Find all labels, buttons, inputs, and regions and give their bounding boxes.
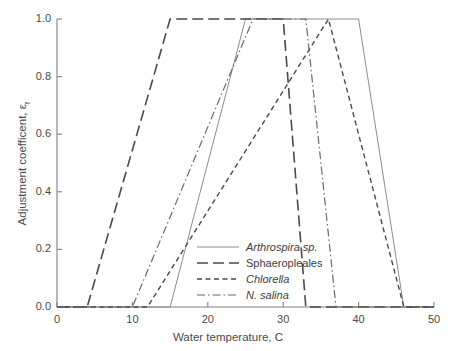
- x-tick-label: 50: [414, 313, 454, 325]
- legend-line-sample: [196, 289, 240, 301]
- legend-item: Chlorella: [196, 271, 322, 286]
- legend-label: Arthrospira sp.: [246, 241, 318, 253]
- y-tick-label: 0.0: [9, 300, 51, 312]
- legend-item: Arthrospira sp.: [196, 239, 322, 254]
- x-tick-label: 10: [112, 313, 152, 325]
- legend-item: Sphaeropleales: [196, 255, 322, 270]
- y-axis-title: Adjustment coefficent, εf: [16, 54, 31, 274]
- x-axis-title: Water temperature, C: [0, 331, 456, 343]
- y-tick-label: 1.0: [9, 12, 51, 24]
- x-tick-label: 20: [188, 313, 228, 325]
- x-tick-label: 40: [339, 313, 379, 325]
- legend-label: Chlorella: [246, 273, 289, 285]
- x-tick-label: 0: [37, 313, 77, 325]
- legend-line-sample: [196, 257, 240, 269]
- chart-figure: 010203040500.00.20.40.60.81.0 Adjustment…: [0, 0, 456, 351]
- legend-line-sample: [196, 241, 240, 253]
- legend: Arthrospira sp.SphaeroplealesChlorellaN.…: [196, 239, 322, 302]
- y-axis-title-subscript: f: [23, 102, 32, 104]
- legend-line-sample: [196, 273, 240, 285]
- legend-item: N. salina: [196, 287, 322, 302]
- y-axis-title-text: Adjustment coefficent, ε: [16, 104, 28, 225]
- x-tick-label: 30: [263, 313, 303, 325]
- legend-label: N. salina: [246, 289, 289, 301]
- legend-label: Sphaeropleales: [246, 257, 322, 269]
